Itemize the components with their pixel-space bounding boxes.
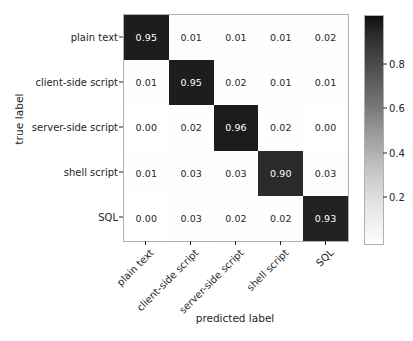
heatmap-cell-value: 0.93 (315, 213, 337, 224)
colorbar-tick-mark (383, 63, 387, 64)
heatmap-cell: 0.03 (169, 151, 214, 196)
y-tick-mark (119, 36, 123, 37)
heatmap-cell-value: 0.01 (315, 77, 337, 88)
heatmap-cell-value: 0.02 (180, 122, 202, 133)
colorbar-tick-label: 0.8 (389, 58, 405, 69)
y-tick-label: plain text (12, 31, 118, 42)
heatmap-cell-value: 0.01 (136, 77, 158, 88)
heatmap-cell: 0.00 (124, 105, 169, 150)
heatmap-cell-value: 0.90 (270, 168, 292, 179)
y-tick-label: server-side script (12, 122, 118, 133)
heatmap-cell: 0.02 (214, 60, 259, 105)
heatmap-cell-value: 0.01 (136, 168, 158, 179)
colorbar-tick-mark (383, 197, 387, 198)
colorbar-tick-label: 0.4 (389, 147, 405, 158)
colorbar-tick-label: 0.2 (389, 192, 405, 203)
heatmap-cell: 0.01 (124, 151, 169, 196)
heatmap-cell: 0.03 (214, 151, 259, 196)
heatmap-cell: 0.02 (169, 105, 214, 150)
heatmap-cell-value: 0.00 (136, 122, 158, 133)
heatmap-cell-value: 0.02 (270, 213, 292, 224)
heatmap-cell-value: 0.03 (225, 168, 247, 179)
heatmap-cell: 0.93 (303, 196, 348, 241)
heatmap-cell-value: 0.02 (225, 77, 247, 88)
heatmap-cell-value: 0.01 (180, 32, 202, 43)
heatmap-cell: 0.90 (258, 151, 303, 196)
heatmap-cell-value: 0.95 (136, 32, 158, 43)
heatmap-cell: 0.01 (214, 15, 259, 60)
heatmap-cell-value: 0.02 (225, 213, 247, 224)
heatmap-cell: 0.00 (303, 105, 348, 150)
heatmap-cell: 0.01 (169, 15, 214, 60)
heatmap-cell-value: 0.02 (315, 32, 337, 43)
heatmap-cell: 0.02 (258, 196, 303, 241)
heatmap-cell-value: 0.03 (180, 213, 202, 224)
x-tick-mark (190, 241, 191, 245)
heatmap-cell: 0.01 (124, 60, 169, 105)
y-tick-label: SQL (12, 212, 118, 223)
heatmap-cell: 0.00 (124, 196, 169, 241)
heatmap-cell-value: 0.00 (315, 122, 337, 133)
heatmap-cell: 0.95 (124, 15, 169, 60)
colorbar-tick-label: 0.6 (389, 103, 405, 114)
heatmap-cell-value: 0.01 (270, 77, 292, 88)
colorbar-gradient (365, 16, 383, 244)
y-tick-mark (119, 81, 123, 82)
heatmap-cell: 0.02 (258, 105, 303, 150)
heatmap-cell-value: 0.00 (136, 213, 158, 224)
y-tick-label: client-side script (12, 76, 118, 87)
heatmap-cell: 0.95 (169, 60, 214, 105)
x-tick-mark (145, 241, 146, 245)
x-axis-title: predicted label (123, 312, 347, 324)
x-tick-mark (280, 241, 281, 245)
heatmap-cell: 0.01 (258, 15, 303, 60)
heatmap-cell: 0.01 (303, 60, 348, 105)
colorbar (364, 15, 384, 245)
y-tick-label: shell script (12, 167, 118, 178)
heatmap-cell: 0.01 (258, 60, 303, 105)
heatmap-cell-value: 0.03 (315, 168, 337, 179)
confusion-matrix-figure: true label plain text client-side script… (0, 0, 413, 341)
x-tick-label: plain text (43, 247, 155, 341)
heatmap-cell: 0.02 (303, 15, 348, 60)
heatmap-cell: 0.03 (303, 151, 348, 196)
heatmap-cell-value: 0.96 (225, 122, 247, 133)
heatmap-cell-value: 0.03 (180, 168, 202, 179)
heatmap-cell-value: 0.01 (270, 32, 292, 43)
x-tick-mark (235, 241, 236, 245)
heatmap-grid: 0.950.010.010.010.020.010.950.020.010.01… (123, 14, 349, 242)
heatmap-cell-value: 0.01 (225, 32, 247, 43)
heatmap-cell-value: 0.02 (270, 122, 292, 133)
heatmap-cell-value: 0.95 (180, 77, 202, 88)
colorbar-tick-mark (383, 152, 387, 153)
y-axis-tick-labels: plain text client-side script server-sid… (12, 14, 118, 240)
heatmap-cell: 0.96 (214, 105, 259, 150)
y-tick-mark (119, 172, 123, 173)
heatmap-cell: 0.02 (214, 196, 259, 241)
colorbar-tick-mark (383, 108, 387, 109)
heatmap-cell: 0.03 (169, 196, 214, 241)
y-tick-mark (119, 127, 123, 128)
y-tick-mark (119, 217, 123, 218)
x-tick-mark (325, 241, 326, 245)
